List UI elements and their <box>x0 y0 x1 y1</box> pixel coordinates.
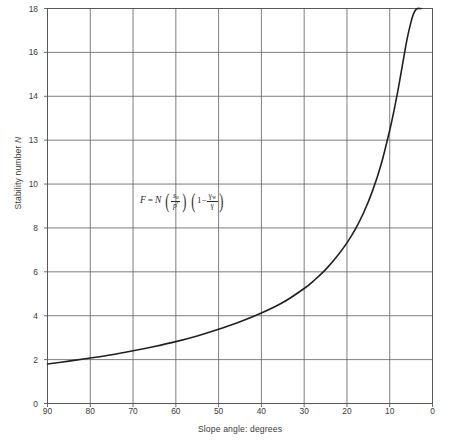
formula-fraction-gammaw-gamma: γwγ <box>207 192 217 209</box>
formula-N: N <box>155 195 161 205</box>
axis-ticks <box>44 9 433 408</box>
gridlines-horizontal <box>48 52 433 359</box>
formula-paren-close-1: ) <box>182 193 186 209</box>
x-axis-tick-label: 40 <box>246 406 276 416</box>
stability-number-chart: 024681013141618 9080706050403020100 Stab… <box>0 0 450 445</box>
x-axis-tick-label: 70 <box>118 406 148 416</box>
formula-paren-close-2: ) <box>219 193 223 209</box>
x-axis-tick-label: 10 <box>375 406 405 416</box>
y-axis-tick-label: 6 <box>14 267 38 277</box>
formula-fraction-denominator: p′ <box>171 202 180 210</box>
x-axis-tick-label: 50 <box>204 406 234 416</box>
formula-gamma: γ <box>207 202 217 210</box>
formula-paren-open-1: ( <box>166 193 170 209</box>
x-axis-title: Slope angle: degrees <box>47 424 433 434</box>
y-axis-tick-label: 4 <box>14 311 38 321</box>
chart-plot-area <box>0 0 450 445</box>
formula-s-subscript: u <box>176 194 179 200</box>
formula-minus: − <box>202 195 207 205</box>
formula-fraction-su-p: sup′ <box>171 192 180 209</box>
formula-F: F <box>140 195 146 205</box>
y-axis-tick-label: 18 <box>14 4 38 14</box>
formula-p-prime: ′ <box>177 201 179 210</box>
x-axis-tick-label: 90 <box>33 406 63 416</box>
y-axis-title: Stability number N <box>13 103 23 243</box>
x-axis-tick-label: 60 <box>161 406 191 416</box>
formula-gamma-w-subscript: w <box>212 194 216 200</box>
x-axis-tick-label: 80 <box>75 406 105 416</box>
y-axis-tick-label: 14 <box>14 91 38 101</box>
stability-formula: F=N(sup′)(1−γwγ) <box>140 192 225 209</box>
stability-number-curve <box>48 8 421 364</box>
formula-equals: = <box>148 195 153 205</box>
plot-frame <box>48 9 433 404</box>
y-axis-tick-label: 16 <box>14 47 38 57</box>
formula-paren-open-2: ( <box>192 193 196 209</box>
y-axis-title-text: Stability number <box>13 143 23 210</box>
x-axis-tick-label: 20 <box>332 406 362 416</box>
x-axis-tick-label: 0 <box>418 406 448 416</box>
gridlines-vertical <box>90 9 389 404</box>
y-axis-title-symbol: N <box>13 137 23 143</box>
y-axis-tick-label: 2 <box>14 355 38 365</box>
x-axis-tick-label: 30 <box>289 406 319 416</box>
